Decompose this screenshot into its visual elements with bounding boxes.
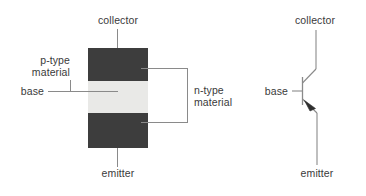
collector-branch	[303, 69, 317, 83]
pnp-arrowhead-icon	[305, 101, 316, 112]
transistor-figure: collector emitter p-type material base n…	[0, 0, 366, 196]
pnp-symbol-lines	[0, 0, 366, 196]
